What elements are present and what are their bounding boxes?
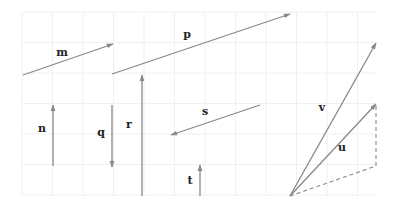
vector-m-arrow (23, 44, 113, 75)
vector-u-label: u (338, 141, 346, 154)
vector-u-arrow (290, 104, 376, 196)
vector-v-label: v (318, 101, 326, 114)
vector-diagram: mpnqrstvu (0, 0, 397, 206)
vector-p-arrow (112, 14, 290, 74)
vector-p-label: p (183, 28, 191, 41)
vector-q-label: q (97, 126, 105, 139)
vector-s-arrow (171, 105, 260, 135)
vector-n-label: n (38, 122, 46, 135)
vector-v-arrow (290, 43, 376, 196)
vector-t-label: t (187, 174, 193, 187)
vector-r-label: r (126, 118, 132, 131)
vector-m-label: m (56, 46, 68, 59)
vector-labels: mpnqrstvu (38, 28, 346, 187)
parallelogram-bottom-dashed-line (290, 166, 376, 196)
vector-s-label: s (202, 105, 208, 118)
